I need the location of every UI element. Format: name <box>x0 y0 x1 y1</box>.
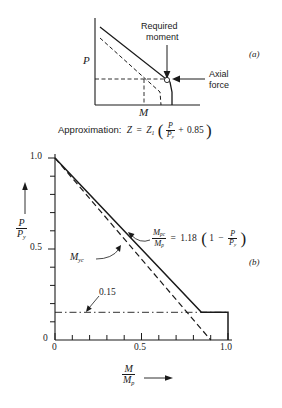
y-tick-label-top: 1.0 <box>30 152 42 162</box>
caption-Z: Z <box>127 125 132 135</box>
equation-mpc: Mpc Mp = 1.18 ( 1 − P Py ) <box>152 228 246 249</box>
x-tick-label-mid: 0.5 <box>134 343 146 353</box>
axial-force-arrow-head <box>172 76 180 83</box>
panel-b-y-ticks <box>48 158 55 322</box>
x-axis-label-fraction: M Mp <box>122 364 135 386</box>
x-axis-label-den: Mp <box>122 375 135 386</box>
panel-a-caption: Approximation: Z = Z1 ( P Py + 0.85 ) <box>58 122 212 140</box>
equation-p-over-py: P Py <box>228 230 237 248</box>
required-moment-label-line2: moment <box>146 33 179 42</box>
caption-plus: + <box>178 125 183 135</box>
myc-leader-line <box>96 249 119 259</box>
caption-equals: = <box>136 125 141 135</box>
panel-b-graphics <box>0 140 282 408</box>
caption-paren-close: ) <box>206 121 212 140</box>
caption-p-over-py: P Py <box>166 122 175 140</box>
caption-ratio-den: Py <box>166 131 175 139</box>
axial-force-label-line1: Axial <box>209 70 229 79</box>
panel-a-x-axis-label: M <box>139 107 148 118</box>
equation-rhs-den: Py <box>228 239 237 247</box>
equation-paren-open: ( <box>201 229 207 248</box>
panel-b-tag: (b) <box>249 258 260 267</box>
y-axis-label-fraction: P Py <box>16 218 27 240</box>
panel-b-x-ticks <box>55 333 228 340</box>
y-tick-label-zero: 0 <box>43 334 48 344</box>
y-axis-label-den: Py <box>16 229 27 240</box>
equation-equals: = <box>170 233 175 243</box>
myc-leader-arrowhead <box>116 245 122 252</box>
equation-lhs-den: Mp <box>152 239 166 249</box>
equation-paren-close: ) <box>241 229 247 248</box>
curve-label-myc: Myc <box>70 252 84 263</box>
caption-Z1-subscript: 1 <box>151 130 154 136</box>
panel-a-y-axis-label: P <box>83 55 90 66</box>
cutoff-leader-line <box>89 296 99 308</box>
x-tick-label-max: 1.0 <box>220 343 232 353</box>
axial-force-label-line2: force <box>209 81 229 90</box>
panel-b-x-axis-label: M Mp <box>122 364 135 386</box>
required-moment-label-line1: Required <box>141 22 178 31</box>
caption-paren-open: ( <box>158 121 164 140</box>
equation-minus: − <box>218 233 223 243</box>
panel-a-curve-dashed <box>100 38 161 105</box>
x-tick-label-zero: 0 <box>52 343 57 353</box>
x-axis-direction-arrow-head <box>165 375 173 381</box>
caption-prefix: Approximation: <box>58 124 121 135</box>
panel-b: 1.0 0.5 0 0 0.5 1.0 P Py M Mp Myc 0.15 <box>0 140 282 408</box>
caption-constant: 0.85 <box>187 125 204 135</box>
cutoff-label-015: 0.15 <box>99 288 116 298</box>
panel-a-tag: (a) <box>249 50 260 59</box>
y-axis-direction-arrow-head <box>22 182 28 190</box>
y-tick-label-mid: 0.5 <box>30 243 42 253</box>
equation-one: 1 <box>209 233 214 243</box>
figure-root: P M Required moment Axial force (a) Appr… <box>0 0 282 408</box>
panel-b-y-axis-label: P Py <box>16 218 27 240</box>
panel-a: P M Required moment Axial force (a) Appr… <box>0 0 282 145</box>
equation-coefficient: 1.18 <box>180 233 197 243</box>
equation-lhs-fraction: Mpc Mp <box>152 228 166 249</box>
intersection-marker <box>164 77 169 82</box>
